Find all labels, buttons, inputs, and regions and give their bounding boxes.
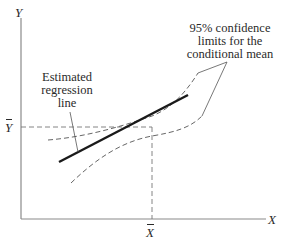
x-mean-label-text: X	[146, 225, 154, 240]
regression-leader-line	[70, 112, 78, 152]
y-mean-overbar	[6, 119, 12, 120]
x-axis-label: X	[268, 213, 276, 226]
x-mean-overbar	[147, 224, 154, 225]
lower-confidence-band	[71, 116, 202, 183]
x-mean-label: X	[146, 226, 154, 239]
regression-annotation: Estimated regression line	[33, 71, 101, 110]
y-mean-label: Y	[5, 121, 12, 134]
confidence-annotation: 95% confidence limits for the conditiona…	[180, 22, 280, 61]
y-axis-label: Y	[15, 6, 22, 19]
y-mean-label-text: Y	[5, 120, 12, 135]
